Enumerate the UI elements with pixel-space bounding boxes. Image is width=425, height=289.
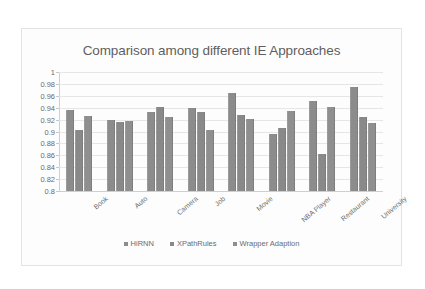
bar-groups [59, 72, 383, 191]
bar-group [188, 72, 214, 191]
bar-group [107, 72, 133, 191]
legend-swatch-icon [170, 242, 174, 246]
bar [309, 101, 317, 191]
x-axis-category-label: NBA Player [300, 195, 332, 223]
bar [269, 134, 277, 191]
y-axis-tick-label: 0.9 [45, 127, 55, 136]
bar-group [147, 72, 173, 191]
y-axis-tick-label: 1 [51, 68, 55, 77]
bar [359, 117, 367, 191]
legend-swatch-icon [124, 242, 128, 246]
x-axis-category-label: Auto [133, 195, 149, 210]
x-axis-category-labels: BookAutoCameraJobMovieNBA PlayerRestaura… [59, 193, 383, 239]
bar [228, 93, 236, 191]
gridline [59, 191, 383, 192]
y-axis-tick-label: 0.84 [40, 163, 55, 172]
bar [147, 112, 155, 191]
legend-label: XPathRules [177, 239, 217, 248]
bar-group [66, 72, 92, 191]
y-axis-tick-label: 0.82 [40, 175, 55, 184]
legend-item[interactable]: Wrapper Adaption [233, 239, 300, 248]
bar [116, 122, 124, 191]
y-axis-tick-label: 0.94 [40, 103, 55, 112]
bar [327, 107, 335, 191]
legend-item[interactable]: XPathRules [170, 239, 217, 248]
bar [278, 128, 286, 191]
y-axis-tickmark [56, 191, 59, 192]
bar [350, 87, 358, 191]
bar [84, 116, 92, 191]
bar [75, 130, 83, 191]
x-axis-category-label: Movie [255, 195, 274, 212]
chart-legend: HiRNNXPathRulesWrapper Adaption [22, 239, 401, 248]
x-axis-category-label: Job [213, 195, 226, 208]
y-axis-tick-label: 0.96 [40, 91, 55, 100]
plot-area: 10.980.960.940.920.90.880.860.840.820.8 [59, 72, 383, 191]
y-axis-tick-label: 0.98 [40, 79, 55, 88]
bar [156, 107, 164, 191]
bar [197, 112, 205, 191]
bar [206, 130, 214, 191]
x-axis-category-label: University [380, 195, 408, 220]
bar [237, 115, 245, 191]
chart-title: Comparison among different IE Approaches [22, 43, 401, 58]
chart-figure: Comparison among different IE Approaches… [21, 28, 402, 266]
bar [246, 119, 254, 191]
bar [66, 110, 74, 191]
bar [125, 121, 133, 191]
y-axis-tick-label: 0.88 [40, 139, 55, 148]
x-axis-category-label: Restaurant [340, 195, 371, 222]
legend-label: HiRNN [131, 239, 154, 248]
bar [165, 117, 173, 191]
y-axis-tick-label: 0.92 [40, 115, 55, 124]
y-axis-tick-label: 0.86 [40, 151, 55, 160]
y-axis-tick-label: 0.8 [45, 187, 55, 196]
bar [287, 111, 295, 191]
bar-group [228, 72, 254, 191]
bar-group [269, 72, 295, 191]
bar-group [350, 72, 376, 191]
legend-label: Wrapper Adaption [240, 239, 300, 248]
x-axis-category-label: Camera [176, 195, 200, 216]
bar [107, 120, 115, 191]
bar [368, 123, 376, 191]
bar [318, 154, 326, 191]
bar-group [309, 72, 335, 191]
legend-swatch-icon [233, 242, 237, 246]
legend-item[interactable]: HiRNN [124, 239, 154, 248]
x-axis-category-label: Book [93, 195, 110, 211]
bar [188, 108, 196, 191]
